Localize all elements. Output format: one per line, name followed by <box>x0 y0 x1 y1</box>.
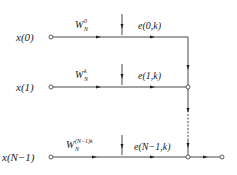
signal-flow-diagram: x(0) W 0 N e(0,k) x(1) W k N e(1,k) x(N−… <box>0 0 237 175</box>
arrow-icon <box>187 108 190 113</box>
input-label-1: x(1) <box>15 81 34 94</box>
arrow-icon <box>203 156 208 159</box>
twiddle-sub-last: N <box>74 146 80 152</box>
input-node-0 <box>49 35 53 39</box>
twiddle-sub-1: N <box>83 76 89 82</box>
twiddle-sup-1: k <box>84 68 87 74</box>
arrow-icon <box>150 36 155 39</box>
twiddle-sup-last: (N−1)k <box>75 138 93 145</box>
sum-node-1 <box>186 85 190 89</box>
error-label-last: e(N−1,k) <box>134 141 171 153</box>
output-node <box>220 155 224 159</box>
arrow-icon <box>92 156 97 159</box>
arrow-icon <box>121 144 124 149</box>
input-node-1 <box>49 85 53 89</box>
row-1: x(1) W k N e(1,k) <box>15 64 190 94</box>
arrow-icon <box>150 86 155 89</box>
error-label-0: e(0,k) <box>138 20 162 32</box>
arrow-icon <box>150 156 155 159</box>
row-0: x(0) W 0 N e(0,k) <box>15 14 188 44</box>
input-node-last <box>49 155 53 159</box>
arrow-icon <box>96 86 101 89</box>
input-label-0: x(0) <box>15 31 34 44</box>
twiddle-sub-0: N <box>83 26 89 32</box>
arrow-icon <box>187 143 190 148</box>
sum-node-last <box>186 155 190 159</box>
input-label-last: x(N−1) <box>1 151 35 164</box>
twiddle-sup-0: 0 <box>84 18 87 24</box>
arrow-icon <box>121 74 124 79</box>
arrow-icon <box>187 65 190 70</box>
arrow-icon <box>121 24 124 29</box>
error-label-1: e(1,k) <box>138 70 162 82</box>
row-last: x(N−1) W (N−1)k N e(N−1,k) <box>1 135 190 164</box>
arrow-icon <box>96 36 101 39</box>
